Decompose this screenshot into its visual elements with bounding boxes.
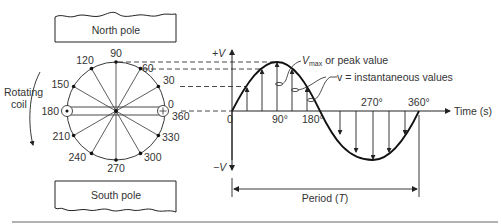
angle-240: 240 — [68, 151, 86, 163]
origin-label: 0 — [227, 113, 233, 125]
rotation-circle: 0 30 60 90 120 150 180 210 240 270 300 3… — [41, 47, 189, 174]
rotation-arrow-icon — [30, 72, 40, 145]
peak-annotation: Vmax or peak value — [302, 54, 388, 67]
angle-180: 180 — [41, 105, 59, 117]
period-label: Period (T) — [302, 192, 349, 204]
angle-210: 210 — [52, 130, 70, 142]
y-negative-label: −V — [213, 161, 227, 173]
angle-360: 360 — [172, 110, 190, 122]
angle-0: 0 — [168, 98, 174, 110]
angle-150: 150 — [51, 78, 69, 90]
angle-60: 60 — [142, 62, 154, 74]
angle-330: 330 — [162, 131, 180, 143]
south-pole: South pole — [55, 181, 176, 212]
rotating-coil-label-1: Rotating — [4, 86, 43, 98]
angle-300: 300 — [144, 151, 162, 163]
instantaneous-annotation: v = instantaneous values — [337, 71, 453, 83]
south-pole-label: South pole — [91, 189, 141, 201]
north-pole-label: North pole — [92, 24, 141, 36]
rotating-coil-label-2: coil — [11, 98, 27, 110]
period-indicator: Period (T) — [232, 115, 419, 204]
angle-90: 90 — [110, 47, 122, 59]
annotations: Vmax or peak value v = instantaneous val… — [276, 54, 453, 102]
angle-270: 270 — [107, 162, 125, 174]
tick-360: 360° — [408, 96, 430, 108]
tick-270: 270° — [361, 96, 383, 108]
angle-120: 120 — [76, 54, 94, 66]
x-axis-label: Time (s) — [454, 105, 492, 117]
tick-90: 90° — [272, 113, 288, 125]
ac-generation-diagram: North pole South pole Rotating coil — [0, 0, 501, 224]
north-pole: North pole — [55, 12, 176, 42]
y-positive-label: +V — [212, 47, 226, 59]
tick-180: 180° — [302, 113, 324, 125]
rotation-indicator: Rotating coil — [4, 72, 43, 145]
positive-instantaneous-arrows — [247, 63, 307, 111]
angle-30: 30 — [163, 74, 175, 86]
